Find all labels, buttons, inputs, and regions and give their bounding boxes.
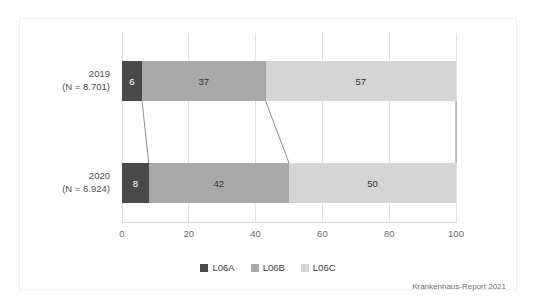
bar-row[interactable]: 84250 — [122, 163, 456, 203]
bar-segment-value: 8 — [133, 178, 138, 189]
category-n: (N = 8.701) — [14, 80, 110, 93]
x-tick-label: 60 — [317, 228, 328, 239]
bar-segment-value: 42 — [214, 178, 225, 189]
bar-segment[interactable]: 37 — [142, 61, 266, 101]
bar-segment[interactable]: 50 — [289, 163, 456, 203]
bar-segment-value: 57 — [356, 76, 367, 87]
x-tick-label: 100 — [448, 228, 464, 239]
bar-row[interactable]: 63757 — [122, 61, 456, 101]
x-tick-label: 20 — [184, 228, 195, 239]
legend-item[interactable]: L06C — [301, 262, 336, 273]
category-year: 2020 — [14, 169, 110, 182]
chart-legend: L06AL06BL06C — [0, 262, 536, 273]
x-tick-label: 0 — [119, 228, 124, 239]
bar-segment[interactable]: 57 — [266, 61, 456, 101]
bar-segment[interactable]: 6 — [122, 61, 142, 101]
legend-label: L06B — [263, 262, 285, 273]
bar-segment-value: 50 — [367, 178, 378, 189]
legend-swatch — [251, 264, 259, 272]
legend-label: L06A — [212, 262, 234, 273]
legend-item[interactable]: L06B — [251, 262, 285, 273]
chart-figure: 63757 84250 2019 (N = 8.701) 2020 (N = 6… — [0, 0, 536, 308]
bar-segment-value: 37 — [199, 76, 210, 87]
plot-area: 63757 84250 — [122, 33, 456, 222]
bar-segment[interactable]: 8 — [122, 163, 149, 203]
legend-swatch — [301, 264, 309, 272]
category-year: 2019 — [14, 67, 110, 80]
legend-item[interactable]: L06A — [200, 262, 234, 273]
bar-segment[interactable]: 42 — [149, 163, 289, 203]
x-axis-line — [122, 222, 457, 223]
legend-swatch — [200, 264, 208, 272]
legend-label: L06C — [313, 262, 336, 273]
category-label-2020: 2020 (N = 6.924) — [14, 169, 110, 195]
bar-segment-value: 6 — [129, 76, 134, 87]
source-credit: Krankenhaus-Report 2021 — [412, 282, 506, 291]
category-label-2019: 2019 (N = 8.701) — [14, 67, 110, 93]
x-tick-label: 80 — [384, 228, 395, 239]
x-tick-label: 40 — [250, 228, 261, 239]
category-n: (N = 6.924) — [14, 182, 110, 195]
